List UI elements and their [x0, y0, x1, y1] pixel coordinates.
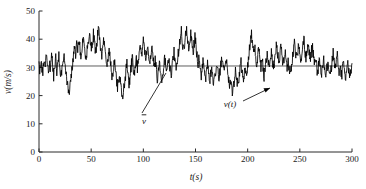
y-tick-label: 40 [26, 34, 36, 44]
x-tick-label: 0 [37, 154, 42, 164]
x-tick-label: 300 [345, 154, 359, 164]
mean-annotation-label: v [142, 116, 146, 126]
x-axis-title: t(s) [190, 172, 203, 183]
y-tick-label: 20 [26, 91, 36, 101]
x-tick-label: 250 [293, 154, 307, 164]
y-axis-title: v(m/s) [3, 70, 14, 94]
figure-container: 01020304050 050100150200250300 v v(t) t(… [0, 0, 366, 189]
x-tick-label: 100 [137, 154, 151, 164]
y-tick-label: 0 [31, 147, 36, 157]
y-tick-label: 10 [26, 119, 36, 129]
y-tick-label: 30 [26, 63, 36, 73]
chart-background [0, 0, 366, 189]
x-tick-label: 150 [189, 154, 203, 164]
signal-annotation-label: v(t) [224, 99, 237, 109]
velocity-time-chart: 01020304050 050100150200250300 v v(t) t(… [0, 0, 366, 189]
y-tick-label: 50 [26, 6, 36, 16]
x-tick-label: 50 [87, 154, 97, 164]
x-tick-label: 200 [241, 154, 255, 164]
